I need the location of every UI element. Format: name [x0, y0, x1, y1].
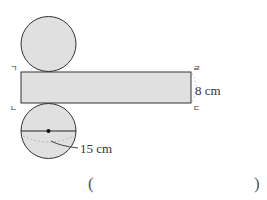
vertex-label-top-right: ㄹ [193, 64, 200, 73]
answer-blank[interactable] [100, 176, 250, 196]
vertex-label-top-left: ㄱ [10, 64, 17, 73]
center-dot [47, 129, 51, 133]
top-base-circle [21, 17, 76, 72]
answer-close-paren: ) [254, 174, 260, 194]
vertex-label-bottom-left: ㄴ [10, 104, 17, 113]
diameter-label: 15 cm [80, 141, 112, 156]
answer-open-paren: ( [88, 174, 94, 194]
height-label: 8 cm [195, 83, 221, 98]
lateral-face-rectangle [21, 72, 191, 103]
vertex-label-bottom-right: ㄷ [193, 104, 200, 113]
cylinder-net-diagram: ㄱ ㄴ ㄹ ㄷ 8 cm 15 cm [0, 0, 267, 200]
